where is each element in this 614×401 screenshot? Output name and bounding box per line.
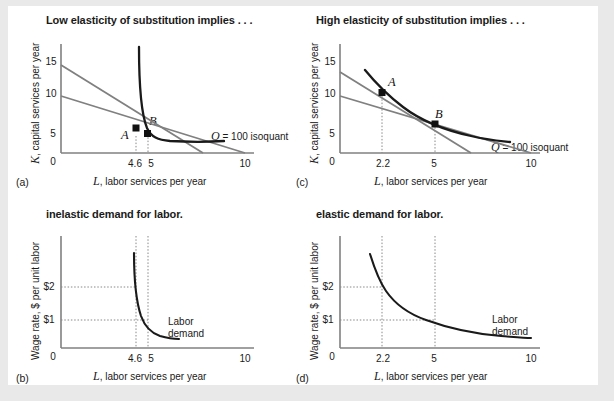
panel-d-labor-demand-curve: [370, 254, 531, 338]
panel-a-isocost-new: [61, 96, 245, 153]
panel-b: inelastic demand for labor. (b) Wage rat…: [8, 196, 303, 385]
panel-a-point-a-marker: [133, 125, 140, 132]
panel-a-isoquant-curve: [139, 47, 224, 142]
panel-c-isoquant-curve: [365, 70, 510, 142]
panel-b-plot: [8, 196, 303, 385]
panel-c: High elasticity of substitution implies …: [296, 6, 598, 196]
figure-canvas: Low elasticity of substitution implies .…: [8, 6, 598, 385]
panel-a: Low elasticity of substitution implies .…: [8, 6, 303, 196]
panel-c-plot: [296, 6, 598, 196]
panel-b-labor-demand-curve: [134, 253, 179, 339]
panel-d: elastic demand for labor. (d) Wage rate,…: [296, 196, 598, 385]
figure-root: Low elasticity of substitution implies .…: [0, 0, 614, 401]
panel-d-plot: [296, 196, 598, 385]
panel-a-point-b-marker: [144, 130, 151, 137]
panel-c-point-a-marker: [379, 89, 386, 96]
panel-c-isocost-initial: [340, 72, 471, 153]
panel-a-plot: [8, 6, 303, 196]
panel-c-point-b-marker: [432, 121, 439, 128]
panel-a-isocost-initial: [61, 65, 203, 153]
